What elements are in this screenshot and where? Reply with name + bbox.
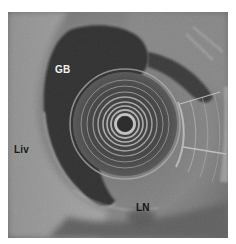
liver-label: Liv (14, 145, 29, 155)
lymph-node-label: LN (136, 203, 150, 213)
ultrasound-scan-graphic (8, 12, 228, 238)
gallbladder-label: GB (55, 65, 70, 75)
ultrasound-image: GB Liv LN (8, 12, 228, 238)
